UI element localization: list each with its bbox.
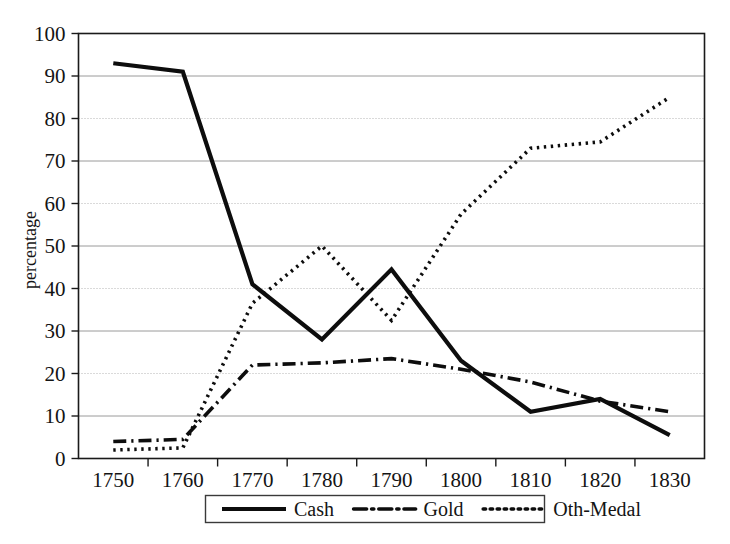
- x-tick-label-1770: 1770: [231, 468, 273, 492]
- y-tick-label-40: 40: [45, 277, 66, 301]
- x-axis-tick-labels: 175017601770178017901800181018201830: [92, 468, 690, 492]
- x-tick-label-1830: 1830: [649, 468, 691, 492]
- y-axis-title: percentage: [20, 211, 40, 289]
- y-tick-label-10: 10: [45, 404, 66, 428]
- x-tick-label-1810: 1810: [510, 468, 552, 492]
- y-tick-label-60: 60: [45, 192, 66, 216]
- y-tick-label-30: 30: [45, 319, 66, 343]
- y-tick-label-100: 100: [34, 22, 66, 46]
- y-tick-label-0: 0: [55, 447, 66, 471]
- x-tick-label-1780: 1780: [301, 468, 343, 492]
- x-axis-ticks: [148, 459, 635, 467]
- y-tick-label-20: 20: [45, 362, 66, 386]
- legend: CashGoldOth-Medal: [206, 496, 642, 523]
- y-axis-ticks: [72, 34, 79, 459]
- series-line-cash: [113, 63, 669, 435]
- x-tick-label-1760: 1760: [162, 468, 204, 492]
- x-tick-label-1800: 1800: [440, 468, 482, 492]
- line-chart: 0102030405060708090100 17501760177017801…: [0, 0, 730, 544]
- x-tick-label-1820: 1820: [579, 468, 621, 492]
- data-series-group: [113, 63, 669, 450]
- legend-label-cash: Cash: [294, 498, 334, 520]
- x-tick-label-1790: 1790: [371, 468, 413, 492]
- x-tick-label-1750: 1750: [92, 468, 134, 492]
- legend-label-oth-medal: Oth-Medal: [553, 498, 641, 520]
- plot-gridlines: [79, 76, 705, 416]
- chart-figure: 0102030405060708090100 17501760177017801…: [0, 0, 730, 544]
- y-tick-label-50: 50: [45, 234, 66, 258]
- y-tick-label-90: 90: [45, 64, 66, 88]
- legend-label-gold: Gold: [424, 498, 464, 520]
- y-tick-label-70: 70: [45, 149, 66, 173]
- y-tick-label-80: 80: [45, 107, 66, 131]
